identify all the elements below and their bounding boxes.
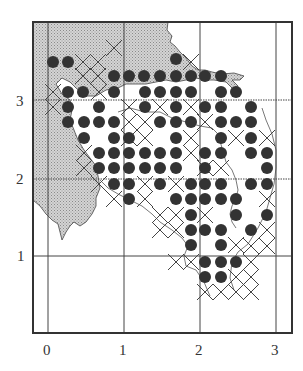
- dot-marker: [215, 256, 227, 268]
- dot-marker: [139, 162, 151, 174]
- dot-marker: [154, 162, 166, 174]
- dot-marker: [215, 101, 227, 113]
- cross-marker: [121, 99, 137, 115]
- y-tick-3: 3: [16, 93, 24, 109]
- cross-marker: [213, 160, 229, 176]
- dot-marker: [170, 101, 182, 113]
- dot-marker: [230, 86, 242, 98]
- dot-marker: [230, 209, 242, 221]
- dot-marker: [245, 101, 257, 113]
- dot-marker: [261, 178, 273, 190]
- cross-marker: [137, 130, 153, 146]
- cross-marker: [137, 191, 153, 207]
- dot-marker: [62, 56, 74, 68]
- cross-marker: [259, 222, 275, 238]
- dot-marker: [215, 193, 227, 205]
- dot-marker: [47, 56, 59, 68]
- dot-marker: [261, 162, 273, 174]
- dot-marker: [185, 193, 197, 205]
- dot-marker: [185, 178, 197, 190]
- dot-marker: [154, 147, 166, 159]
- cross-marker: [168, 176, 184, 192]
- dot-marker: [138, 70, 150, 82]
- cross-marker: [152, 99, 168, 115]
- dot-marker: [170, 162, 182, 174]
- dot-marker: [93, 101, 105, 113]
- dot-marker: [154, 86, 166, 98]
- cross-marker: [259, 191, 275, 207]
- dot-marker: [154, 116, 166, 128]
- cross-marker: [213, 284, 229, 300]
- dot-marker: [185, 224, 197, 236]
- dot-marker: [170, 116, 182, 128]
- dot-marker: [215, 86, 227, 98]
- dot-marker: [78, 132, 90, 144]
- dot-marker: [93, 116, 105, 128]
- dot-marker: [215, 147, 227, 159]
- dot-marker: [199, 256, 211, 268]
- dot-marker: [215, 224, 227, 236]
- cross-marker: [168, 222, 184, 238]
- x-tick-3: 3: [271, 342, 279, 358]
- dot-marker: [123, 70, 135, 82]
- dot-marker: [245, 147, 257, 159]
- dot-marker: [215, 178, 227, 190]
- y-tick-2: 2: [16, 171, 24, 187]
- dot-marker: [170, 70, 182, 82]
- dot-marker: [123, 193, 135, 205]
- dot-marker: [123, 162, 135, 174]
- dot-marker: [154, 178, 166, 190]
- dot-marker: [62, 116, 74, 128]
- figure-map: 0 1 2 3 1 2 3: [0, 0, 303, 371]
- dot-marker: [215, 239, 227, 251]
- dot-marker: [261, 209, 273, 221]
- dot-marker: [108, 132, 120, 144]
- dot-marker: [199, 162, 211, 174]
- dot-marker: [199, 147, 211, 159]
- dot-marker: [108, 178, 120, 190]
- cross-marker: [228, 237, 244, 253]
- dot-marker: [139, 147, 151, 159]
- x-tick-0: 0: [43, 342, 51, 358]
- dot-marker: [123, 178, 135, 190]
- dot-marker: [185, 116, 197, 128]
- dot-marker: [108, 86, 120, 98]
- dot-marker: [199, 224, 211, 236]
- dot-marker: [199, 70, 211, 82]
- x-tick-1: 1: [119, 342, 127, 358]
- dot-marker: [230, 116, 242, 128]
- dot-marker: [215, 70, 227, 82]
- dot-marker: [123, 132, 135, 144]
- dot-marker: [199, 101, 211, 113]
- cross-marker: [228, 284, 244, 300]
- dot-marker: [139, 101, 151, 113]
- cross-marker: [183, 145, 199, 161]
- dot-marker: [170, 132, 182, 144]
- dot-marker: [170, 147, 182, 159]
- cross-marker: [152, 207, 168, 223]
- cross-marker: [121, 114, 137, 130]
- cross-marker: [137, 176, 153, 192]
- cross-marker: [243, 269, 259, 285]
- cross-marker: [197, 284, 213, 300]
- dot-marker: [245, 224, 257, 236]
- dot-marker: [139, 86, 151, 98]
- dot-marker: [170, 86, 182, 98]
- cross-marker: [259, 238, 275, 254]
- dot-marker: [215, 132, 227, 144]
- cross-marker: [197, 207, 213, 223]
- dot-marker: [62, 101, 74, 113]
- dot-marker: [185, 86, 197, 98]
- cross-marker: [168, 207, 184, 223]
- cross-marker: [183, 99, 199, 115]
- y-tick-1: 1: [17, 248, 25, 264]
- dot-marker: [108, 116, 120, 128]
- dot-marker: [215, 116, 227, 128]
- dot-marker: [154, 70, 166, 82]
- dot-marker: [123, 147, 135, 159]
- dot-marker: [261, 147, 273, 159]
- cross-marker: [137, 114, 153, 130]
- dot-marker: [62, 86, 74, 98]
- cross-marker: [197, 114, 213, 130]
- cross-marker: [228, 130, 244, 146]
